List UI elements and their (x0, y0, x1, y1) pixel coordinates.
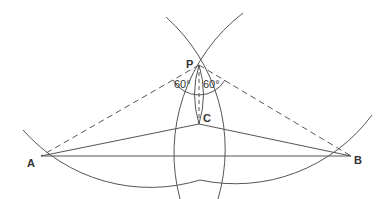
line-CB (199, 124, 351, 156)
line-CA (41, 124, 199, 156)
angle-label-right: 60° (203, 78, 220, 90)
label-P: P (186, 58, 193, 70)
geometry-diagram: P C A B 60° 60° (0, 0, 390, 199)
label-C: C (203, 112, 211, 124)
label-A: A (27, 157, 35, 169)
arc-centered-B (174, 13, 243, 199)
diagram-svg: P C A B 60° 60° (0, 0, 390, 199)
angle-label-left: 60° (174, 78, 191, 90)
line-PB (199, 65, 351, 156)
label-B: B (354, 154, 362, 166)
